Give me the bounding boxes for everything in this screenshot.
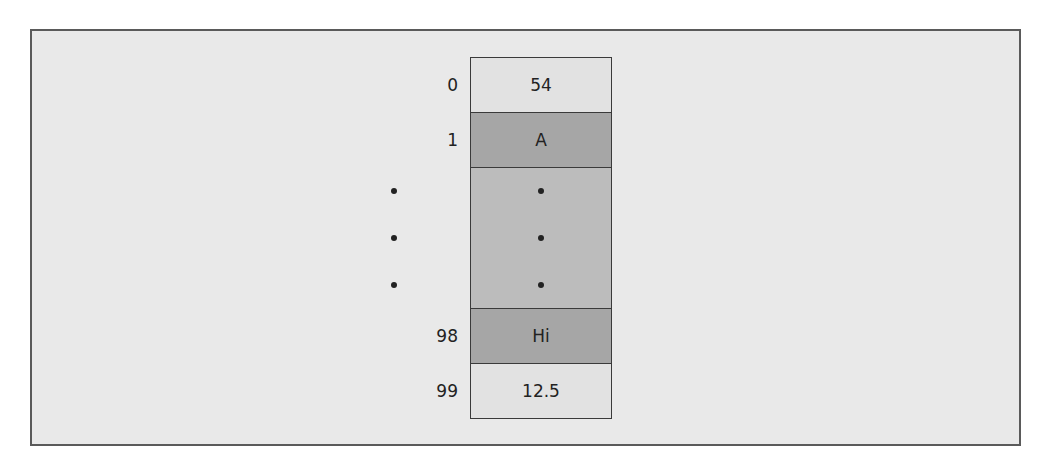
array-cell-99: 99 12.5 [471,364,611,418]
index-ellipsis [389,168,399,308]
array-cell-98: 98 Hi [471,309,611,364]
array-column: 0 54 1 A 98 Hi 99 12.5 [470,57,612,419]
ellipsis-dot-icon [538,235,544,241]
cell-value-0: 54 [530,75,552,95]
index-label-99: 99 [398,381,458,401]
cell-value-99: 12.5 [522,381,560,401]
value-ellipsis [471,168,611,308]
ellipsis-dot-icon [391,188,397,194]
ellipsis-dot-icon [391,235,397,241]
index-label-0: 0 [398,75,458,95]
cell-value-98: Hi [532,326,550,346]
index-label-1: 1 [398,130,458,150]
ellipsis-dot-icon [538,188,544,194]
ellipsis-dot-icon [538,282,544,288]
array-cell-ellipsis [471,168,611,309]
ellipsis-dot-icon [391,282,397,288]
cell-value-1: A [535,130,547,150]
array-cell-1: 1 A [471,113,611,168]
index-label-98: 98 [398,326,458,346]
array-cell-0: 0 54 [471,58,611,113]
